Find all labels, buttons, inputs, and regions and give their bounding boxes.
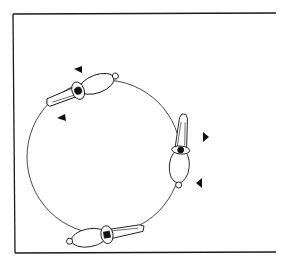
horse-rider-top-left <box>43 68 122 111</box>
arena-diagram <box>0 0 283 263</box>
horse-rider-bottom <box>65 219 146 250</box>
horse-rider-right <box>167 113 193 188</box>
direction-marker-2 <box>57 114 66 121</box>
horse-tail <box>175 182 182 189</box>
arena-border <box>13 13 276 253</box>
rider-head <box>177 147 184 154</box>
rider-head <box>103 231 110 238</box>
horse-tail <box>66 238 73 245</box>
direction-marker-1 <box>74 66 82 73</box>
arena-bottom-edge <box>15 252 276 253</box>
arena-left-edge <box>13 14 15 253</box>
direction-marker-3 <box>203 132 209 142</box>
direction-marker-4 <box>196 178 202 188</box>
arena-top-edge <box>13 13 276 14</box>
